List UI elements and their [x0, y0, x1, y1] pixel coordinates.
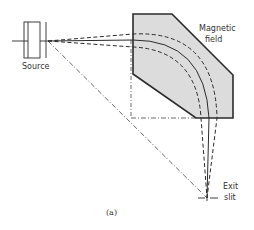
- exit-label-line1: Exit: [223, 182, 238, 191]
- figure-caption: (a): [106, 208, 117, 217]
- exit-slit: [198, 198, 218, 201]
- exit-label-line2: slit: [224, 193, 236, 202]
- mass-spectrometer-diagram: Source Magnetic field Exit slit (a): [0, 0, 254, 230]
- source-label: Source: [22, 62, 50, 71]
- magnetic-field-label-line2: field: [205, 35, 222, 44]
- magnetic-field-label-line1: Magnetic: [199, 24, 236, 33]
- source-assembly: [12, 22, 48, 58]
- source-box: [24, 22, 40, 58]
